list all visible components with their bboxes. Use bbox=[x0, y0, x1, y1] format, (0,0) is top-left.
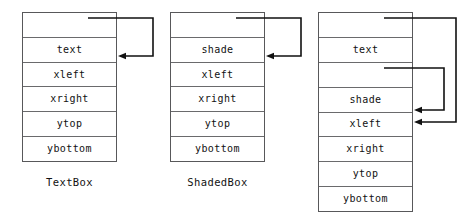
shadedbox-vptr-arrow-head bbox=[266, 53, 274, 59]
text-box-object: text xleft xright ytop ybottom bbox=[22, 12, 117, 162]
field-row-xleft: xleft bbox=[171, 63, 264, 88]
text-box-label: TextBox bbox=[22, 176, 117, 188]
field-row-xleft: xleft bbox=[319, 113, 412, 138]
field-row-text: text bbox=[23, 38, 116, 63]
field-row-vptr-2 bbox=[319, 63, 412, 88]
field-row-vptr bbox=[23, 13, 116, 38]
shadedtextbox-vptr1-arrow-head bbox=[414, 119, 422, 125]
field-row-ybottom: ybottom bbox=[23, 137, 116, 161]
field-row-vptr bbox=[171, 13, 264, 38]
shaded-text-box-object: text shade xleft xright ytop ybottom bbox=[318, 12, 413, 212]
field-row-vptr-1 bbox=[319, 13, 412, 38]
field-row-ytop: ytop bbox=[171, 112, 264, 137]
shaded-box-object: shade xleft xright ytop ybottom bbox=[170, 12, 265, 162]
field-row-xright: xright bbox=[319, 137, 412, 162]
field-row-xright: xright bbox=[171, 87, 264, 112]
shadedtextbox-vptr2-arrow-head bbox=[414, 107, 422, 113]
textbox-vptr-arrow-head bbox=[118, 53, 126, 59]
shaded-box-label: ShadedBox bbox=[170, 176, 265, 188]
field-row-ybottom: ybottom bbox=[319, 187, 412, 211]
field-row-ytop: ytop bbox=[23, 112, 116, 137]
field-row-ybottom: ybottom bbox=[171, 137, 264, 161]
field-row-ytop: ytop bbox=[319, 162, 412, 187]
field-row-shade: shade bbox=[319, 88, 412, 113]
field-row-xright: xright bbox=[23, 87, 116, 112]
field-row-shade: shade bbox=[171, 38, 264, 63]
field-row-text: text bbox=[319, 38, 412, 63]
field-row-xleft: xleft bbox=[23, 63, 116, 88]
object-layout-diagram: text xleft xright ytop ybottom shade xle… bbox=[0, 0, 474, 216]
